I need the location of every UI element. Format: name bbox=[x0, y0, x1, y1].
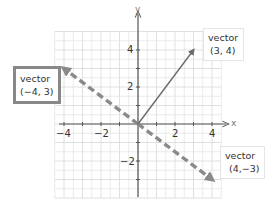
callout-vector-4-neg3: vector (4,−3) bbox=[220, 146, 265, 179]
callout-vector-3-4: vector (3, 4) bbox=[203, 28, 244, 61]
y-tick-label: 2 bbox=[127, 81, 133, 93]
callout-line1: vector bbox=[208, 31, 239, 44]
callout-line1: vector bbox=[225, 149, 260, 162]
callout-line2: (−4, 3) bbox=[20, 85, 54, 98]
x-tick-label: −2 bbox=[94, 128, 109, 140]
y-tick-label: −2 bbox=[120, 156, 135, 168]
callout-line2: (4,−3) bbox=[225, 162, 260, 175]
y-axis-label: y bbox=[135, 3, 140, 15]
y-tick-label: 4 bbox=[127, 44, 133, 56]
x-tick-label: −4 bbox=[56, 128, 71, 140]
x-tick-label: 4 bbox=[209, 128, 215, 140]
callout-vector-neg4-3: vector (−4, 3) bbox=[13, 66, 61, 104]
x-tick-label: 2 bbox=[172, 128, 178, 140]
x-axis-label: x bbox=[231, 117, 236, 129]
callout-line2: (3, 4) bbox=[208, 44, 239, 57]
callout-line1: vector bbox=[20, 72, 54, 85]
